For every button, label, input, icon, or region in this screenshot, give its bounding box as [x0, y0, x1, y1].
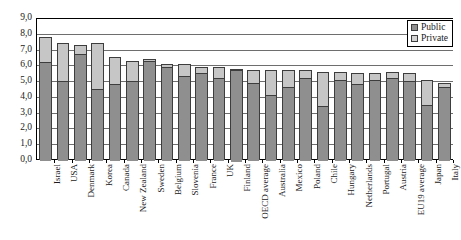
bar-stack — [247, 70, 259, 160]
x-tick-label: EU19 average — [414, 164, 423, 215]
bar-segment-public — [318, 107, 328, 161]
y-tick-label: 8,0 — [0, 29, 32, 38]
bar-slot — [124, 18, 141, 160]
bar-stack — [421, 80, 433, 160]
x-tick-label: Japan — [431, 164, 440, 185]
bar-segment-public — [422, 106, 432, 161]
bar-slot — [332, 18, 349, 160]
x-tick — [141, 160, 142, 163]
bar-segment-private — [283, 71, 293, 88]
bar-segment-public — [110, 85, 120, 161]
x-tick — [228, 160, 229, 163]
bar-stack — [282, 70, 294, 160]
bar-segment-private — [214, 68, 224, 79]
bar-segment-public — [179, 77, 189, 161]
x-tick — [401, 160, 402, 163]
bar-slot — [280, 18, 297, 160]
bar-slot — [176, 18, 193, 160]
bar-segment-public — [352, 85, 362, 161]
bar-segment-public — [266, 96, 276, 161]
bar-segment-public — [144, 62, 154, 161]
x-axis-labels: IsraelUSADenmarkKoreaCanadaNew ZealandSw… — [37, 164, 453, 240]
x-tick-label: Israel — [50, 164, 59, 184]
bar-slot — [245, 18, 262, 160]
bar-stack — [265, 70, 277, 160]
bar-segment-private — [248, 71, 258, 84]
bar-segment-public — [404, 82, 414, 161]
bar-segment-private — [266, 71, 276, 96]
bar-stack — [143, 59, 155, 160]
bar-segment-public — [283, 88, 293, 161]
x-tick-label: Finland — [240, 164, 249, 192]
bar-slot — [106, 18, 123, 160]
bar-segment-private — [179, 65, 189, 78]
bar-stack — [317, 72, 329, 160]
x-tick-label: France — [206, 164, 215, 189]
bar-stack — [195, 67, 207, 160]
x-tick-label: Australia — [275, 164, 284, 197]
bar-segment-public — [214, 79, 224, 161]
bar-segment-private — [75, 46, 85, 55]
bar-segment-private — [422, 81, 432, 106]
bar-stack — [74, 45, 86, 160]
bar-stack — [57, 43, 69, 160]
bar-stack — [126, 61, 138, 160]
y-tick-label: 6,0 — [0, 60, 32, 69]
bar-segment-public — [196, 74, 206, 161]
x-tick — [54, 160, 55, 163]
legend-item-private: Private — [411, 33, 448, 44]
bar-slot — [210, 18, 227, 160]
bar-slot — [89, 18, 106, 160]
bars-container — [37, 18, 453, 160]
bar-stack — [161, 64, 173, 160]
legend-swatch-private-icon — [411, 35, 418, 42]
x-tick-label: Mexico — [292, 164, 301, 192]
x-tick — [106, 160, 107, 163]
bar-segment-public — [127, 82, 137, 161]
bar-slot — [314, 18, 331, 160]
bar-segment-public — [248, 84, 258, 161]
x-tick-label: USA — [67, 164, 76, 182]
bar-slot — [228, 18, 245, 160]
stacked-bar-chart: 9,08,07,06,05,04,03,02,01,00,0 IsraelUSA… — [0, 0, 461, 240]
legend-label-public: Public — [421, 22, 445, 33]
y-tick-label: 1,0 — [0, 139, 32, 148]
bar-segment-private — [110, 58, 120, 85]
y-tick-label: 3,0 — [0, 108, 32, 117]
bar-stack — [91, 43, 103, 160]
x-tick — [72, 160, 73, 163]
bar-segment-private — [335, 73, 345, 81]
bar-stack — [369, 73, 381, 160]
legend-label-private: Private — [421, 33, 448, 44]
x-tick — [210, 160, 211, 163]
bar-segment-public — [300, 79, 310, 161]
bar-segment-private — [58, 44, 68, 82]
bar-segment-public — [40, 63, 50, 161]
bar-stack — [213, 67, 225, 160]
bar-segment-public — [335, 81, 345, 161]
x-tick-label: Sweden — [154, 164, 163, 193]
bar-segment-private — [318, 73, 328, 108]
bar-stack — [351, 73, 363, 160]
x-tick-label: Poland — [310, 164, 319, 189]
y-tick-label: 7,0 — [0, 45, 32, 54]
x-tick-label: Hungary — [344, 164, 353, 196]
bar-stack — [109, 57, 121, 160]
bar-stack — [39, 37, 51, 160]
legend-item-public: Public — [411, 22, 448, 33]
x-tick-label: Korea — [102, 164, 111, 186]
x-tick — [314, 160, 315, 163]
bar-segment-public — [370, 81, 380, 161]
x-tick-label: Austria — [396, 164, 405, 191]
bar-slot — [72, 18, 89, 160]
bar-stack — [230, 69, 242, 161]
bar-slot — [54, 18, 71, 160]
bar-slot — [37, 18, 54, 160]
y-tick-label: 0,0 — [0, 155, 32, 164]
bar-segment-private — [40, 38, 50, 63]
bar-slot — [193, 18, 210, 160]
x-tick-label: Portugal — [379, 164, 388, 195]
y-tick-label: 2,0 — [0, 123, 32, 132]
bar-segment-public — [92, 90, 102, 161]
bar-slot — [141, 18, 158, 160]
